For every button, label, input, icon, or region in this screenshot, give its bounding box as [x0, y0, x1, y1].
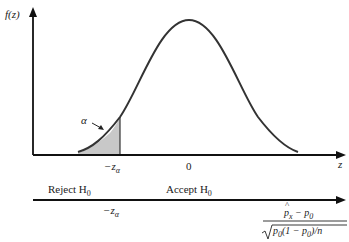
hypothesis-test-diagram: f(z) z α −zα 0 Reject H0 Accept H0 −zα p…: [0, 0, 349, 242]
y-axis-arrow-icon: [29, 7, 37, 17]
test-statistic-denominator: p0(1 − p0)/n: [273, 225, 322, 239]
alpha-label: α: [81, 114, 87, 126]
critical-value-tick-label: −zα: [104, 160, 120, 175]
reject-region-label: Reject H0: [48, 183, 91, 198]
decision-axis-arrow-icon: [336, 196, 346, 204]
x-axis-label: z: [338, 158, 342, 170]
accept-region-label: Accept H0: [166, 183, 212, 198]
zero-tick-label: 0: [186, 160, 192, 172]
alpha-arrow-icon: [98, 125, 104, 130]
phat-hat-icon: ^: [285, 200, 289, 210]
y-axis-label: f(z): [5, 8, 20, 20]
decision-critical-label: −zα: [103, 204, 119, 219]
diagram-graphics: [0, 0, 349, 242]
